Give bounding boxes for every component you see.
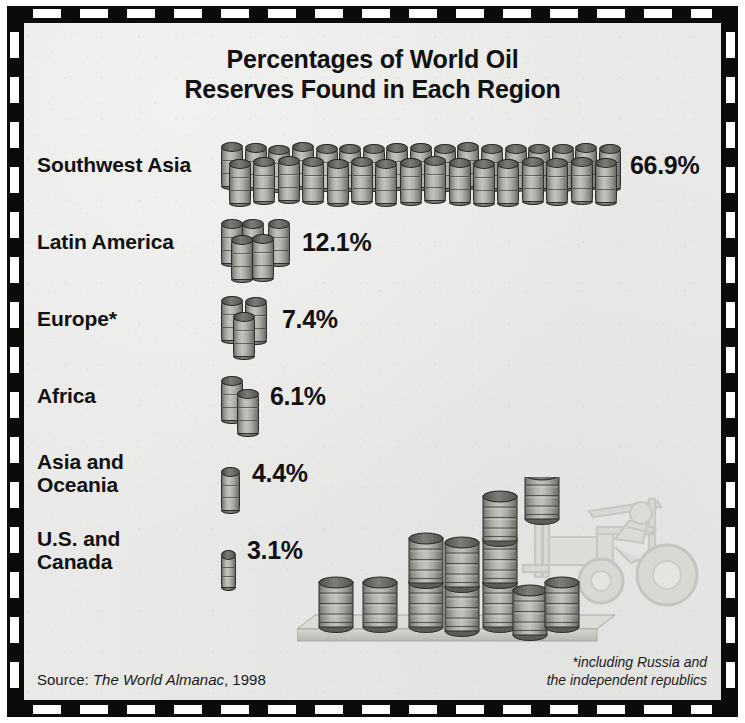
frame-dashes-left: [10, 32, 19, 691]
barrel-pictogram-2: [221, 206, 293, 280]
row-label-4: Africa: [24, 385, 221, 407]
frame-dashes-top: [33, 9, 712, 18]
oil-barrel-icon: [253, 157, 275, 202]
source-title: The World Almanac: [93, 671, 224, 688]
row-value-3: 7.4%: [273, 305, 338, 334]
europe-footnote: *including Russia and the independent re…: [547, 654, 707, 689]
row-label-line-1: Africa: [37, 384, 96, 407]
oil-barrel-icon: [400, 158, 422, 203]
oil-barrel-icon: [571, 157, 593, 202]
chart-row: Africa6.1%: [24, 358, 721, 435]
row-label-line-1: Europe*: [37, 307, 117, 330]
row-label-3: Europe*: [24, 308, 221, 330]
row-value-4: 6.1%: [261, 382, 326, 411]
source-prefix: Source:: [37, 671, 89, 688]
oil-barrel-icon: [327, 159, 349, 204]
oil-barrel-icon: [229, 159, 251, 204]
oil-barrel-icon: [449, 158, 471, 203]
row-label-line-2: Canada: [37, 550, 112, 573]
barrel-pictogram-5: [221, 437, 243, 511]
oil-barrel-icon: [233, 312, 255, 357]
footnote-line-1: *including Russia and: [547, 654, 707, 672]
source-year: , 1998: [224, 671, 266, 688]
row-label-line-1: Asia and: [37, 450, 124, 473]
oil-barrel-icon: [473, 159, 495, 204]
oil-barrel-icon: [375, 159, 397, 204]
chart-row: Latin America12.1%: [24, 204, 721, 281]
row-value-2: 12.1%: [293, 228, 371, 257]
chart-row: Europe*7.4%: [24, 281, 721, 358]
frame-dashes-right: [726, 32, 735, 691]
frame-dashes-bottom: [33, 705, 712, 714]
barrel-pictogram-6: [221, 514, 238, 588]
oil-barrel-icon: [231, 235, 253, 280]
chart-row: Asia andOceania4.4%: [24, 435, 721, 512]
row-label-1: Southwest Asia: [24, 154, 221, 176]
row-label-5: Asia andOceania: [24, 451, 221, 496]
platform: [297, 615, 615, 641]
oil-barrel-icon: [595, 158, 617, 203]
oil-barrel-icon: [351, 157, 373, 202]
row-value-6: 3.1%: [238, 536, 303, 565]
oil-barrel-icon: [546, 158, 568, 203]
title-line-2: Reserves Found in Each Region: [24, 75, 721, 105]
barrel-pictogram-1: [221, 129, 621, 203]
oil-barrel-icon: [252, 234, 274, 279]
row-label-6: U.S. andCanada: [24, 528, 221, 573]
title-line-1: Percentages of World Oil: [24, 45, 721, 75]
chart-plate: Percentages of World Oil Reserves Found …: [24, 23, 721, 700]
row-label-line-2: Oceania: [37, 473, 118, 496]
row-label-line-1: U.S. and: [37, 527, 120, 550]
footnote-line-2: the independent republics: [547, 672, 707, 690]
barrel-pictogram-3: [221, 283, 273, 357]
row-value-1: 66.9%: [621, 151, 699, 180]
row-label-2: Latin America: [24, 231, 221, 253]
barrel-pictogram-4: [221, 360, 261, 434]
oil-barrel-icon: [221, 550, 236, 588]
oil-barrel-icon: [221, 467, 240, 511]
chart-row: U.S. andCanada3.1%: [24, 512, 721, 589]
row-label-line-1: Latin America: [37, 230, 174, 253]
oil-barrel-icon: [424, 156, 446, 201]
page-title: Percentages of World Oil Reserves Found …: [24, 45, 721, 105]
oil-reserves-infographic: Percentages of World Oil Reserves Found …: [0, 0, 745, 723]
oil-barrel-icon: [497, 159, 519, 204]
source-citation: Source: The World Almanac, 1998: [37, 671, 266, 688]
oil-barrel-icon: [302, 157, 324, 202]
oil-barrel-icon: [522, 157, 544, 202]
oil-barrel-icon: [237, 389, 259, 434]
oil-barrel-icon: [278, 156, 300, 201]
chart-row: Southwest Asia66.9%: [24, 127, 721, 204]
chart-rows: Southwest Asia66.9%Latin America12.1%Eur…: [24, 127, 721, 589]
row-label-line-1: Southwest Asia: [37, 153, 191, 176]
row-value-5: 4.4%: [243, 459, 308, 488]
